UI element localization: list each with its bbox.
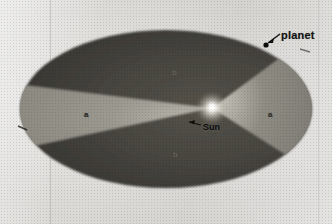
label-planet: planet (281, 29, 315, 41)
label-area-right: a (268, 110, 272, 119)
label-sun: Sun (203, 122, 220, 132)
label-area-bottom: b (173, 150, 178, 159)
label-area-left: a (84, 110, 88, 119)
planet-dot (263, 42, 268, 47)
right-edge-tick (300, 49, 310, 52)
sun-core (208, 103, 216, 111)
label-area-top: b (172, 68, 177, 77)
figure-canvas: planet Sun a a b b (0, 0, 332, 224)
